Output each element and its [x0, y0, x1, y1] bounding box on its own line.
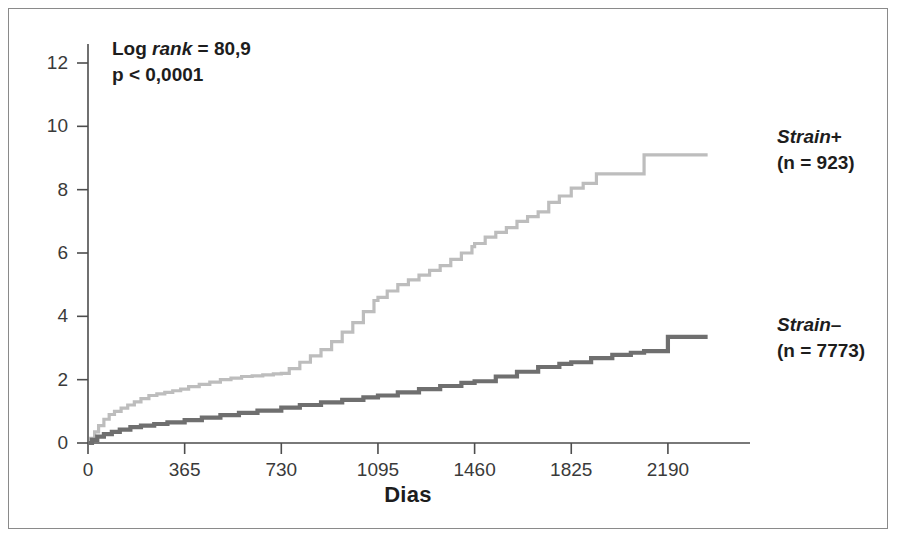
legend-series-sign: –	[831, 314, 842, 335]
legend-entry-strain-positive: Strain+ (n = 923)	[777, 124, 855, 175]
y-axis-tick-label: 12	[24, 52, 68, 74]
figure-container: 024681012 03657301095146018252190 Dias L…	[0, 0, 901, 541]
x-axis-tick-label: 730	[265, 459, 297, 481]
legend-label-line: Strain+	[777, 124, 855, 150]
logrank-italic-word: rank	[152, 38, 192, 59]
y-axis-tick-label: 6	[24, 242, 68, 264]
y-axis-tick-label: 2	[24, 369, 68, 391]
x-axis-title: Dias	[384, 482, 432, 508]
x-axis-ticks	[88, 443, 668, 454]
data-series-group	[88, 155, 708, 443]
logrank-prefix: Log	[112, 38, 152, 59]
x-axis-tick-label: 1460	[453, 459, 495, 481]
legend-series-name: Strain	[777, 314, 831, 335]
series-line-strain-positive	[88, 155, 708, 443]
logrank-line: Log rank = 80,9	[112, 36, 251, 62]
x-axis-tick-label: 1095	[357, 459, 399, 481]
x-axis-tick-label: 2190	[647, 459, 689, 481]
statistics-annotation: Log rank = 80,9 p < 0,0001	[112, 36, 251, 87]
pvalue-line: p < 0,0001	[112, 62, 251, 88]
legend-entry-strain-negative: Strain– (n = 7773)	[777, 312, 865, 363]
x-axis-tick-label: 365	[169, 459, 201, 481]
y-axis-tick-label: 10	[24, 115, 68, 137]
legend-series-name: Strain	[777, 126, 831, 147]
legend-label-line: Strain–	[777, 312, 865, 338]
y-axis-tick-label: 0	[24, 432, 68, 454]
legend-sample-size: (n = 923)	[777, 150, 855, 176]
legend-series-sign: +	[831, 126, 842, 147]
y-axis-tick-label: 4	[24, 305, 68, 327]
y-axis-tick-label: 8	[24, 179, 68, 201]
legend-sample-size: (n = 7773)	[777, 338, 865, 364]
x-axis-tick-label: 0	[83, 459, 94, 481]
x-axis-tick-label: 1825	[550, 459, 592, 481]
axes	[88, 44, 750, 443]
logrank-value: = 80,9	[192, 38, 251, 59]
y-axis-ticks	[77, 63, 88, 443]
